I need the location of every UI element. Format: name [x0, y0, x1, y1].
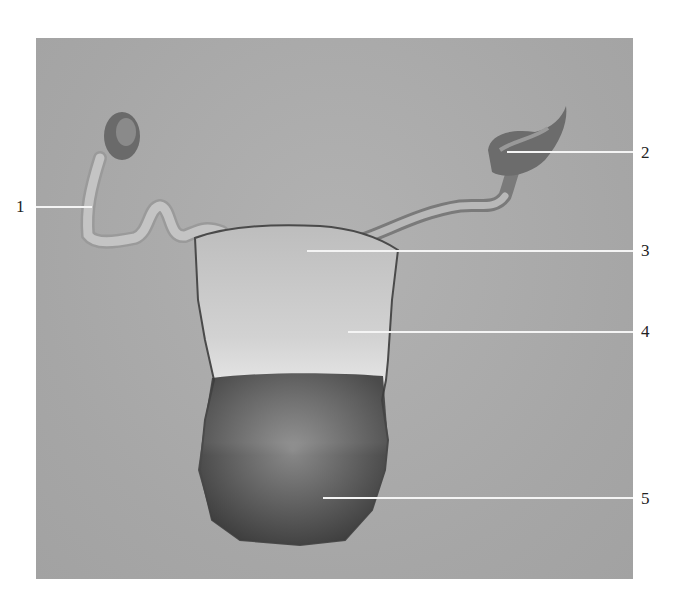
right-ovary [488, 106, 566, 176]
label-4: 4 [641, 323, 650, 340]
label-3: 3 [641, 242, 650, 259]
uterus-specimen-illustration [0, 0, 675, 591]
leader-line-5 [323, 497, 633, 499]
leader-line-3 [307, 250, 633, 252]
label-5: 5 [641, 490, 650, 507]
cervix [198, 373, 388, 545]
leader-line-4 [348, 331, 633, 333]
left-ovary [104, 112, 140, 160]
label-2: 2 [641, 144, 650, 161]
label-1: 1 [16, 198, 25, 215]
leader-line-2 [507, 151, 633, 153]
left-fallopian-tube [88, 158, 223, 242]
leader-line-1 [36, 206, 92, 208]
